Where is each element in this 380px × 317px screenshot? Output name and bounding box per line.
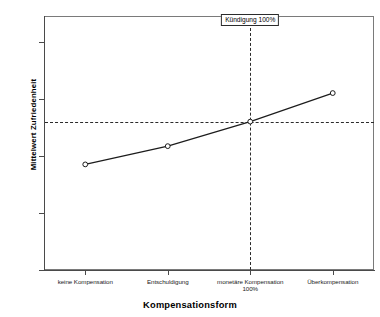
x-tick-mark — [333, 271, 334, 275]
kuendigung-annotation: Kündigung 100% — [221, 14, 279, 26]
chart-container: 0,001,002,003,004,00 keine KompensationE… — [0, 0, 380, 317]
horizontal-mean-line — [45, 122, 374, 123]
y-tick-mark — [39, 42, 44, 43]
x-tick-mark — [85, 271, 86, 275]
x-tick-label-line: Überkompensation — [278, 278, 380, 285]
y-axis-title: Mittelwert Zufriedenheit — [29, 35, 38, 215]
x-tick-label: Überkompensation — [278, 278, 380, 285]
y-tick-mark — [39, 270, 44, 271]
y-tick-mark — [39, 99, 44, 100]
y-tick-mark — [39, 213, 44, 214]
y-tick-mark — [39, 156, 44, 157]
x-tick-mark — [168, 271, 169, 275]
y-axis-line — [44, 16, 45, 271]
x-tick-mark — [250, 271, 251, 275]
x-tick-label-line: 100% — [195, 285, 305, 292]
vertical-category-line — [250, 28, 251, 270]
x-axis-line — [44, 270, 375, 271]
plot-area-frame — [44, 16, 374, 270]
x-axis-title: Kompensationsform — [0, 300, 380, 310]
